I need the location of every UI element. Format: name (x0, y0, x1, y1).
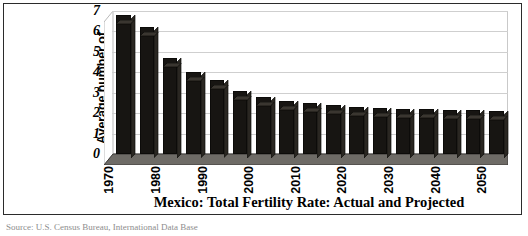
y-tick-label-0: 0 (84, 147, 100, 161)
bar-2010 (303, 103, 317, 154)
bar-2025 (373, 108, 387, 154)
bar-2040 (443, 110, 457, 154)
bar-top-face (233, 87, 251, 91)
bar-top-face (163, 54, 181, 58)
bar-2000 (256, 97, 270, 154)
bar-top-face (396, 105, 414, 109)
bar-1980 (163, 58, 177, 154)
y-tick-label-7: 7 (84, 4, 100, 18)
bar-front-face (116, 15, 130, 154)
y-tick-label-3: 3 (84, 86, 100, 100)
bar-top-face (210, 76, 228, 80)
chart-title: Mexico: Total Fertility Rate: Actual and… (104, 194, 514, 211)
bar-1975 (140, 27, 154, 154)
bar-side-face (177, 58, 181, 154)
chart-figure: Average number of children born to a wom… (0, 0, 528, 236)
bar-1990 (210, 80, 224, 154)
bar-side-face (131, 15, 135, 154)
bar-top-face (116, 11, 134, 15)
bar-top-face (279, 97, 297, 101)
bar-2005 (279, 101, 293, 154)
bar-top-face (186, 68, 204, 72)
bar-2045 (466, 110, 480, 154)
bar-top-face (373, 104, 391, 108)
source-note: Source: U.S. Census Bureau, Internationa… (6, 222, 506, 236)
y-tick-label-6: 6 (84, 24, 100, 38)
y-axis-title: Average number of children born to a wom… (6, 8, 84, 168)
y-tick-label-1: 1 (84, 127, 100, 141)
bar-1970 (116, 15, 130, 154)
bar-series (112, 11, 508, 154)
bar-2020 (349, 107, 363, 154)
bar-2015 (326, 105, 340, 154)
bar-2050 (489, 111, 503, 154)
bar-top-face (489, 107, 507, 111)
bar-top-face (466, 106, 484, 110)
y-tick-label-5: 5 (84, 45, 100, 59)
bar-front-face (140, 27, 154, 154)
bar-2030 (396, 109, 410, 154)
bar-top-face (140, 23, 158, 27)
bar-top-face (303, 99, 321, 103)
y-tick-label-2: 2 (84, 106, 100, 120)
y-axis-ticks: 76543210 (80, 11, 100, 165)
bar-2035 (419, 109, 433, 154)
bar-top-face (443, 106, 461, 110)
bar-1985 (186, 72, 200, 154)
bar-top-face (326, 101, 344, 105)
bar-front-face (210, 80, 224, 154)
y-tick-label-4: 4 (84, 65, 100, 79)
bar-1995 (233, 91, 247, 154)
bar-front-face (186, 72, 200, 154)
bar-side-face (154, 27, 158, 154)
bar-side-face (224, 80, 228, 154)
bar-top-face (419, 105, 437, 109)
bar-side-face (201, 72, 205, 154)
bar-top-face (349, 103, 367, 107)
bar-front-face (163, 58, 177, 154)
bar-top-face (256, 93, 274, 97)
plot-area (104, 11, 508, 165)
